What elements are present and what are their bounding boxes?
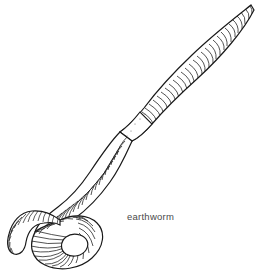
earthworm-drawing <box>0 0 259 270</box>
figure-caption: earthworm <box>127 211 174 222</box>
earthworm-illustration: earthworm <box>0 0 259 270</box>
worm-body-group <box>8 4 254 269</box>
